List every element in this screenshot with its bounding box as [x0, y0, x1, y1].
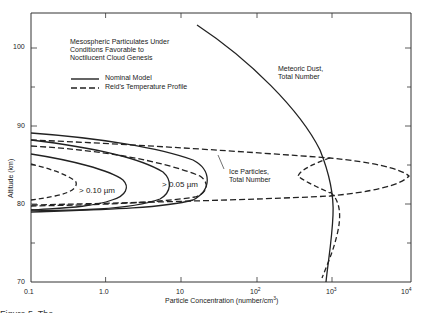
x-tick-10000: 104 [401, 288, 412, 295]
ice-particles-leader [218, 155, 224, 169]
figure-caption: Figure 5. The ... [0, 306, 63, 313]
x-tick-10000-base: 10 [401, 288, 409, 295]
series-gt005-nominal [31, 140, 169, 210]
legend-label-reid: Reid's Temperature Profile [105, 83, 187, 92]
annotation-gt010: > 0.10 µm [79, 187, 115, 196]
x-axis-label-main: Particle Concentration (number/cm [165, 297, 273, 304]
x-tick-100: 102 [250, 288, 261, 295]
x-tick-1000: 103 [326, 288, 337, 295]
series-gt010-nominal [31, 154, 126, 210]
y-axis-label: Altitude (km) [7, 159, 14, 198]
annotation-meteoric-dust-2: Total Number [278, 73, 320, 82]
x-tick-100-exp: 2 [258, 286, 261, 292]
x-tick-10000-exp: 4 [409, 286, 412, 292]
y-tick-90: 90 [17, 122, 25, 129]
series-meteoric-dust-reid [322, 192, 340, 278]
y-tick-80: 80 [17, 200, 25, 207]
x-tick-1000-exp: 3 [334, 286, 337, 292]
legend-label-nominal: Nominal Model [105, 74, 152, 83]
series-gt010-reid [31, 164, 76, 200]
y-axis-ticks [31, 48, 411, 243]
annotation-ice-particles-2: Total Number [229, 176, 271, 185]
x-axis-label-close: ) [276, 297, 278, 304]
annotation-gt005: > 0.05 µm [162, 181, 198, 190]
y-tick-70: 70 [17, 278, 25, 285]
x-tick-100-base: 10 [250, 288, 258, 295]
y-tick-100: 100 [13, 43, 25, 50]
x-tick-0.1: 0.1 [24, 288, 34, 295]
x-tick-10: 10 [176, 288, 184, 295]
x-tick-1: 1.0 [99, 288, 109, 295]
x-axis-label: Particle Concentration (number/cm3) [165, 297, 278, 304]
chart-figure [0, 0, 421, 313]
chart-title-line-3: Noctilucent Cloud Genesis [70, 54, 153, 63]
x-tick-1000-base: 10 [326, 288, 334, 295]
legend-lines [71, 79, 99, 88]
